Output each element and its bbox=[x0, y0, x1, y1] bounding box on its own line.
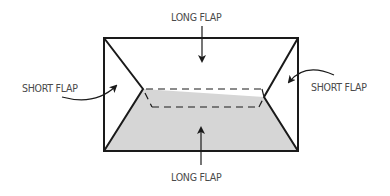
label-left-short-flap: SHORT FLAP bbox=[22, 83, 78, 94]
label-right-short-flap: SHORT FLAP bbox=[311, 82, 367, 93]
envelope-drawing bbox=[0, 0, 390, 196]
envelope-diagram: LONG FLAP LONG FLAP SHORT FLAP SHORT FLA… bbox=[0, 0, 390, 196]
label-bottom-long-flap: LONG FLAP bbox=[171, 172, 221, 183]
label-top-long-flap: LONG FLAP bbox=[171, 12, 221, 23]
